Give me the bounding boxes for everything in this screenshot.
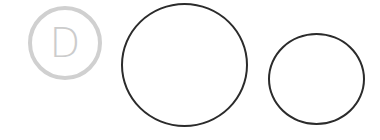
d-logo-icon: D — [28, 6, 102, 80]
logo-letter: D — [32, 10, 98, 76]
small-circle-icon — [268, 33, 365, 125]
large-circle-icon — [121, 3, 248, 127]
